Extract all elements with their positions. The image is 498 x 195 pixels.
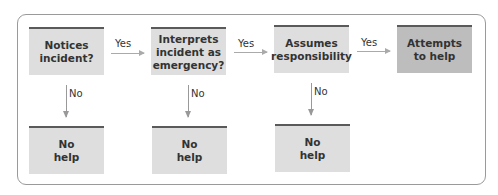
yes-arrow-3 <box>357 51 390 52</box>
node-no-help-2: No help <box>152 126 227 174</box>
no-label-2: No <box>191 88 205 99</box>
no-arrow-3 <box>311 83 312 115</box>
node-attempts-to-help: Attempts to help <box>397 25 472 73</box>
node-interprets-emergency: Interprets incident as emergency? <box>151 27 226 75</box>
node-no-help-1: No help <box>29 126 104 174</box>
node-notices-incident: Notices incident? <box>29 27 104 75</box>
no-arrow-2 <box>188 85 189 117</box>
no-label-3: No <box>314 86 328 97</box>
yes-label-2: Yes <box>238 38 254 49</box>
yes-label-3: Yes <box>361 37 377 48</box>
yes-arrow-2 <box>234 52 267 53</box>
node-no-help-3: No help <box>275 124 350 172</box>
no-arrow-1 <box>66 85 67 117</box>
node-assumes-responsibility: Assumes responsibility <box>274 25 349 73</box>
yes-arrow-1 <box>111 53 144 54</box>
no-label-1: No <box>69 88 83 99</box>
yes-label-1: Yes <box>115 38 131 49</box>
